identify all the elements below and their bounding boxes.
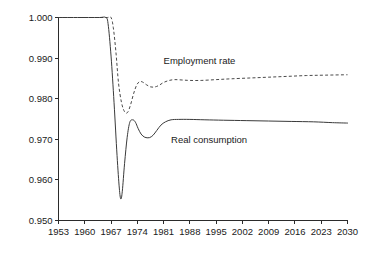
y-tick-label: 0.990 [29,53,53,64]
series-annotations: Employment rateReal consumption [164,55,248,145]
series-lines [59,17,348,199]
x-tick-label: 2023 [311,226,332,237]
y-axis: 1.0000.9900.9800.9700.9600.950 [29,12,59,226]
y-axis-ticks: 1.0000.9900.9800.9700.9600.950 [29,12,59,226]
x-tick-label: 1988 [179,226,200,237]
x-tick-label: 2009 [258,226,279,237]
x-tick-label: 2030 [337,226,358,237]
y-tick-label: 0.970 [29,134,53,145]
x-tick-label: 1967 [100,226,121,237]
x-tick-label: 2002 [232,226,253,237]
annotation-employment-rate: Employment rate [164,55,236,66]
series-line-real-consumption [59,17,348,199]
x-tick-label: 1974 [127,226,148,237]
annotation-real-consumption: Real consumption [171,134,247,145]
x-tick-label: 1981 [153,226,174,237]
chart-container: 1.0000.9900.9800.9700.9600.950 195319601… [0,0,368,258]
x-axis: 1953196019671974198119881995200220092016… [48,221,358,238]
x-axis-ticks: 1953196019671974198119881995200220092016… [48,221,358,238]
x-tick-label: 1995 [206,226,227,237]
line-chart: 1.0000.9900.9800.9700.9600.950 195319601… [0,0,368,258]
y-tick-label: 0.960 [29,174,53,185]
x-tick-label: 1953 [48,226,69,237]
y-tick-label: 1.000 [29,12,53,23]
y-tick-label: 0.950 [29,215,53,226]
x-tick-label: 1960 [74,226,95,237]
x-tick-label: 2016 [284,226,305,237]
y-tick-label: 0.980 [29,93,53,104]
